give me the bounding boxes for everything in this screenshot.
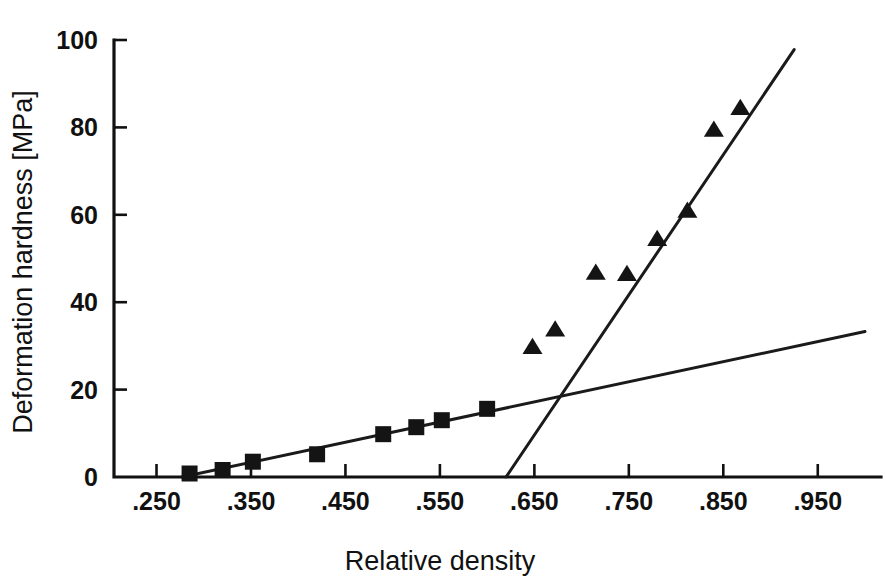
data-point-square <box>309 446 325 462</box>
data-point-square <box>479 401 495 417</box>
data-point-triangle <box>522 338 542 354</box>
triangle-markers-group <box>522 99 750 354</box>
y-tick-label: 100 <box>56 26 98 54</box>
data-point-triangle <box>545 320 565 336</box>
steep-fit-line <box>506 50 794 477</box>
y-tick-label: 80 <box>70 113 98 141</box>
x-tick-label: .250 <box>132 487 181 515</box>
data-point-triangle <box>730 99 750 115</box>
y-tick-label: 20 <box>70 376 98 404</box>
y-tick-label: 40 <box>70 288 98 316</box>
data-point-square <box>434 412 450 428</box>
y-axis-tick-labels: 020406080100 <box>56 26 98 491</box>
y-axis-tick-marks <box>114 40 127 390</box>
data-point-triangle <box>677 201 697 217</box>
data-point-square <box>375 426 391 442</box>
y-tick-label: 0 <box>84 463 98 491</box>
axis-lines <box>114 40 881 477</box>
x-tick-label: .350 <box>227 487 276 515</box>
fit-lines-group <box>182 50 865 477</box>
data-point-triangle <box>704 121 724 137</box>
data-point-square <box>215 462 231 478</box>
x-axis-title: Relative density <box>345 546 536 576</box>
x-tick-label: .450 <box>321 487 370 515</box>
x-tick-label: .550 <box>416 487 465 515</box>
x-tick-label: .950 <box>793 487 842 515</box>
x-axis-tick-labels: .250.350.450.550.650.750.850.950 <box>132 487 842 515</box>
data-point-square <box>245 454 261 470</box>
y-axis-title: Deformation hardness [MPa] <box>8 90 38 434</box>
chart-figure: Deformation hardness [MPa] Relative dens… <box>0 0 886 580</box>
data-point-triangle <box>617 265 637 281</box>
data-point-triangle <box>647 230 667 246</box>
y-tick-label: 60 <box>70 201 98 229</box>
x-tick-label: .750 <box>605 487 654 515</box>
deformation-hardness-scatter-chart: Deformation hardness [MPa] Relative dens… <box>0 0 886 580</box>
data-point-triangle <box>586 263 606 279</box>
x-tick-label: .850 <box>699 487 748 515</box>
data-point-square <box>182 466 198 482</box>
data-point-square <box>408 419 424 435</box>
square-markers-group <box>182 401 496 482</box>
x-tick-label: .650 <box>510 487 559 515</box>
